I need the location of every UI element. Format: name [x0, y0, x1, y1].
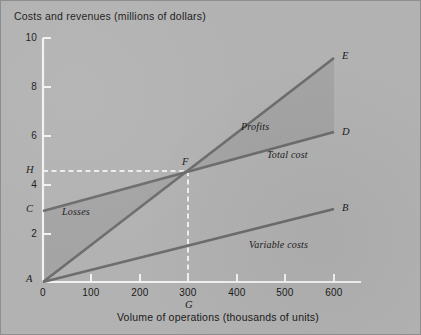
y-tick-label-10: 10 — [15, 32, 37, 43]
y-tick-label-c: C — [26, 203, 33, 214]
x-axis-ticks — [43, 274, 334, 282]
chart-figure: Costs and revenues (millions of dollars)… — [0, 0, 421, 335]
region-label-losses: Losses — [62, 206, 90, 217]
y-tick-label-4: 4 — [15, 179, 37, 190]
x-tick-label-g: G — [185, 299, 193, 310]
y-tick-label-8: 8 — [15, 81, 37, 92]
series-label-total-cost: Total cost — [267, 149, 308, 160]
x-tick-label-300: 300 — [171, 287, 205, 298]
point-label-f: F — [182, 156, 189, 167]
series-label-variable-costs: Variable costs — [249, 239, 308, 250]
y-tick-label-h: H — [26, 164, 34, 175]
point-label-b: B — [342, 202, 349, 213]
x-tick-label-0: 0 — [26, 287, 60, 298]
y-tick-label-a: A — [26, 273, 33, 284]
chart-canvas — [1, 1, 421, 335]
y-tick-label-6: 6 — [15, 130, 37, 141]
x-tick-label-500: 500 — [268, 287, 302, 298]
x-tick-label-200: 200 — [123, 287, 157, 298]
region-label-profits: Profits — [241, 121, 269, 132]
x-tick-label-400: 400 — [220, 287, 254, 298]
x-tick-label-100: 100 — [74, 287, 108, 298]
y-tick-label-2: 2 — [15, 228, 37, 239]
x-tick-label-600: 600 — [317, 287, 351, 298]
y-axis-ticks — [43, 38, 51, 234]
point-label-e: E — [342, 50, 349, 61]
point-label-d: D — [342, 126, 350, 137]
